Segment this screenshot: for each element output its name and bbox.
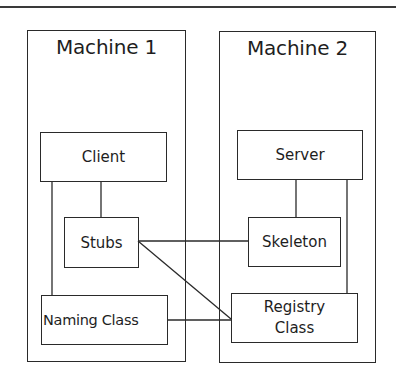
registry-class-label-line2: Class <box>275 318 314 339</box>
machine-1-title: Machine 1 <box>28 35 185 59</box>
skeleton-box: Skeleton <box>248 217 341 267</box>
client-box: Client <box>40 132 167 182</box>
registry-class-label-line1: Registry <box>264 297 325 318</box>
registry-class-box: Registry Class <box>231 293 358 343</box>
naming-class-box: Naming Class <box>41 295 168 345</box>
naming-class-label: Naming Class <box>43 310 138 330</box>
client-label: Client <box>82 147 125 167</box>
server-box: Server <box>237 130 363 180</box>
stubs-box: Stubs <box>64 217 139 268</box>
skeleton-label: Skeleton <box>262 232 327 252</box>
machine-2-title: Machine 2 <box>220 36 375 60</box>
server-label: Server <box>275 145 324 165</box>
stubs-label: Stubs <box>80 233 122 253</box>
